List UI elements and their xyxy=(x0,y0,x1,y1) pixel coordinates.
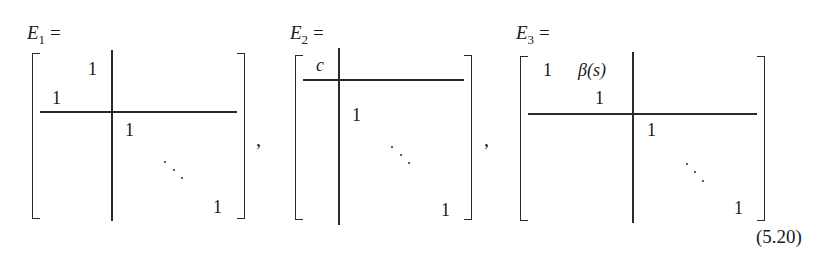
matrix-e2-horizontal-divider xyxy=(303,79,464,81)
matrix-e2-entry: 1 xyxy=(352,106,361,124)
matrix-e3-dots xyxy=(686,163,688,165)
equation-number: (5.20) xyxy=(756,226,802,248)
matrix-e1-left-bracket xyxy=(32,53,40,219)
matrix-e3-right-bracket xyxy=(757,56,765,221)
matrix-e3-dots xyxy=(702,180,704,182)
separator-comma: , xyxy=(256,128,261,151)
matrix-e1-entry: 1 xyxy=(125,121,134,139)
separator-comma: , xyxy=(484,128,489,151)
matrix-e3-vertical-divider xyxy=(632,52,634,223)
matrix-e1-dots xyxy=(173,169,175,171)
matrix-e2-dots xyxy=(408,162,410,164)
matrix-e3-entry: 1 xyxy=(734,199,743,217)
matrix-e3-dots xyxy=(694,171,696,173)
matrix-e3-entry: 1 xyxy=(543,61,552,79)
matrix-e3-entry-beta: β(s) xyxy=(578,61,606,79)
matrix-e2-label: E2= xyxy=(290,22,324,48)
matrix-e1-dots xyxy=(164,161,166,163)
matrix-e2-left-bracket xyxy=(295,55,303,220)
matrix-e1-vertical-divider xyxy=(111,50,113,221)
matrix-e1-dots xyxy=(181,177,183,179)
matrix-e3-label: E3= xyxy=(516,22,550,48)
matrix-e2-entry: c xyxy=(316,56,324,74)
matrix-e1-entry: 1 xyxy=(52,89,61,107)
matrix-e3-left-bracket xyxy=(520,56,528,221)
matrix-e1-right-bracket xyxy=(237,53,245,219)
matrix-e2-dots xyxy=(400,154,402,156)
matrix-e2-dots xyxy=(391,146,393,148)
matrix-e3-horizontal-divider xyxy=(528,113,757,115)
matrix-e1-horizontal-divider xyxy=(40,111,237,113)
matrix-e1-label: E1= xyxy=(27,22,61,48)
matrix-e3-entry: 1 xyxy=(595,89,604,107)
matrix-e2-vertical-divider xyxy=(338,48,340,225)
matrix-e1-entry: 1 xyxy=(213,198,222,216)
matrix-e1-entry: 1 xyxy=(88,60,97,78)
matrix-e2-right-bracket xyxy=(464,55,472,220)
matrix-e3-entry: 1 xyxy=(647,121,656,139)
matrix-e2-entry: 1 xyxy=(441,201,450,219)
